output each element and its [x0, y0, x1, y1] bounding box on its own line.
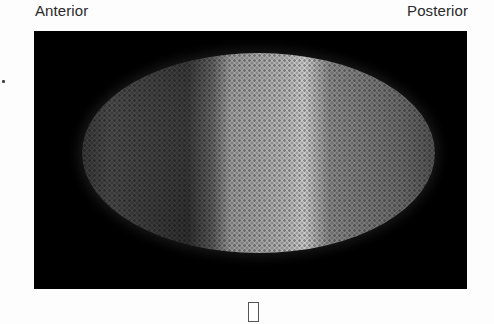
- panel-marker: [2, 80, 5, 83]
- anterior-label: Anterior: [35, 2, 88, 19]
- micrograph-panel: [34, 31, 467, 289]
- posterior-label: Posterior: [407, 2, 468, 19]
- text-cursor-box: [248, 302, 259, 322]
- embryo-image: [82, 53, 435, 253]
